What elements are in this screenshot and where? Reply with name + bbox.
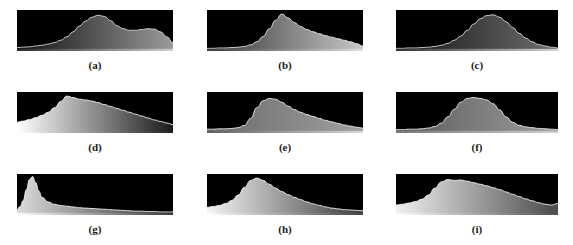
histogram-plot-c	[396, 10, 558, 51]
histogram-curve-g	[17, 174, 173, 215]
histogram-curve-h	[207, 174, 363, 215]
histogram-curve-a	[17, 10, 173, 51]
histogram-curve-c	[396, 10, 558, 51]
histogram-plot-f	[396, 92, 558, 133]
histogram-plot-i	[396, 174, 558, 215]
histogram-panel-h: (h)	[207, 174, 363, 236]
histogram-curve-e	[207, 92, 363, 133]
panel-label-i: (i)	[396, 223, 558, 236]
histogram-plot-e	[207, 92, 363, 133]
histogram-curve-b	[207, 10, 363, 51]
histogram-plot-g	[17, 174, 173, 215]
histogram-plot-h	[207, 174, 363, 215]
histogram-panel-f: (f)	[396, 92, 558, 154]
panel-label-e: (e)	[207, 141, 363, 154]
panel-label-d: (d)	[17, 141, 173, 154]
panel-label-b: (b)	[207, 59, 363, 72]
histogram-panel-g: (g)	[17, 174, 173, 236]
histogram-plot-d	[17, 92, 173, 133]
histogram-curve-d	[17, 92, 173, 133]
histogram-curve-i	[396, 174, 558, 215]
histogram-plot-b	[207, 10, 363, 51]
histogram-curve-f	[396, 92, 558, 133]
histogram-panel-b: (b)	[207, 10, 363, 72]
panel-label-c: (c)	[396, 59, 558, 72]
histogram-panel-d: (d)	[17, 92, 173, 154]
panel-label-h: (h)	[207, 223, 363, 236]
panel-label-f: (f)	[396, 141, 558, 154]
histogram-plot-a	[17, 10, 173, 51]
histogram-panel-e: (e)	[207, 92, 363, 154]
panel-label-g: (g)	[17, 223, 173, 236]
histogram-panel-c: (c)	[396, 10, 558, 72]
histogram-panel-i: (i)	[396, 174, 558, 236]
histogram-figure: (a)(b)(c)(d)(e)(f)(g)(h)(i)	[0, 0, 573, 245]
histogram-panel-a: (a)	[17, 10, 173, 72]
panel-label-a: (a)	[17, 59, 173, 72]
